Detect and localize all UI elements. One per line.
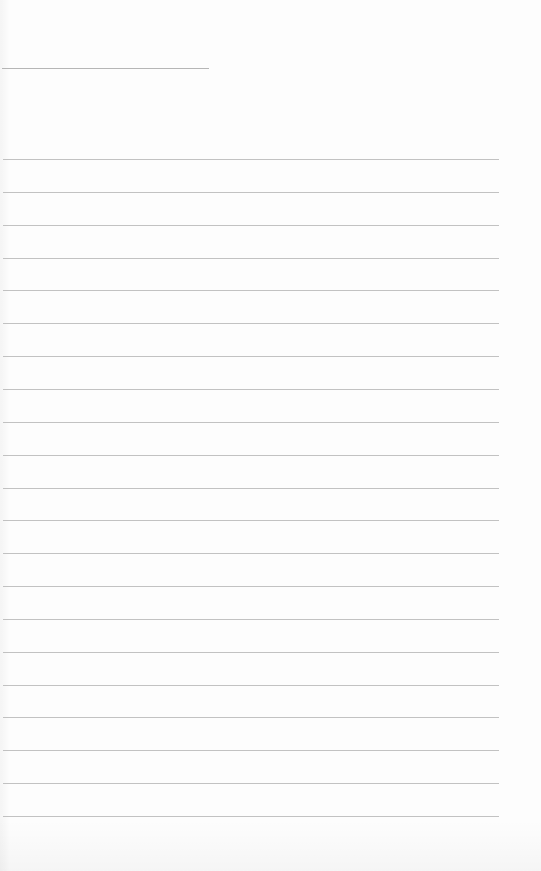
ruled-line bbox=[3, 258, 499, 259]
ruled-line bbox=[3, 389, 499, 390]
ruled-line bbox=[3, 356, 499, 357]
ruled-line bbox=[3, 783, 499, 784]
ruled-line bbox=[3, 816, 499, 817]
ruled-line bbox=[3, 685, 499, 686]
ruled-line bbox=[3, 652, 499, 653]
ruled-line bbox=[3, 225, 499, 226]
ruled-line bbox=[3, 717, 499, 718]
ruled-line bbox=[3, 159, 499, 160]
ruled-line bbox=[3, 586, 499, 587]
ruled-line bbox=[3, 488, 499, 489]
ruled-line bbox=[3, 553, 499, 554]
ruled-line bbox=[3, 290, 499, 291]
ruled-paper-page bbox=[0, 0, 541, 871]
header-rule-line bbox=[2, 68, 209, 69]
ruled-line bbox=[3, 323, 499, 324]
ruled-line bbox=[3, 455, 499, 456]
ruled-line bbox=[3, 192, 499, 193]
ruled-line bbox=[3, 520, 499, 521]
ruled-line bbox=[3, 422, 499, 423]
ruled-line bbox=[3, 619, 499, 620]
ruled-line bbox=[3, 750, 499, 751]
